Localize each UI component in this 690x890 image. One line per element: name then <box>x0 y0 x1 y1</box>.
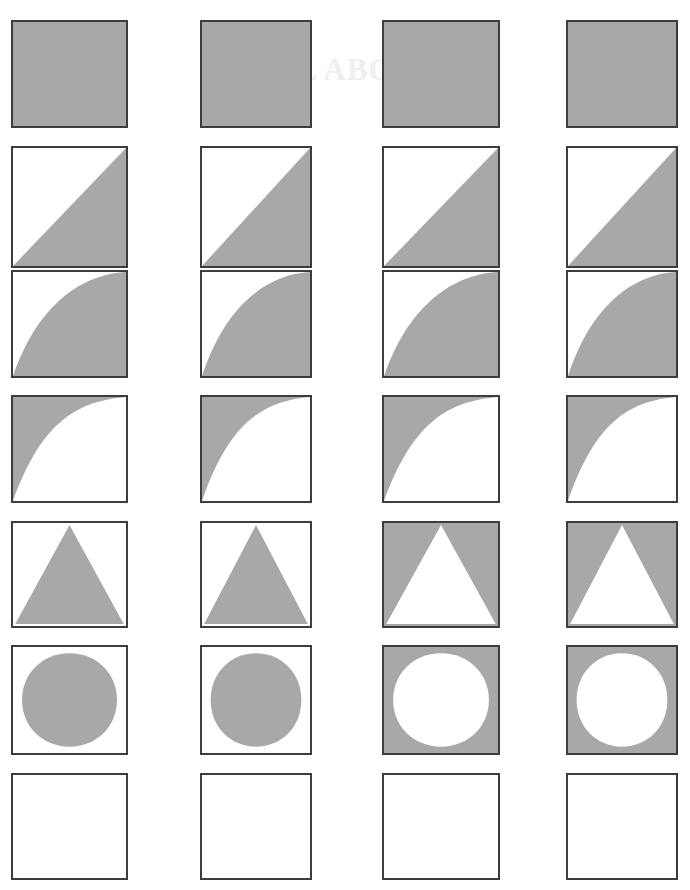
convex-curve-icon <box>568 272 676 376</box>
circle-path <box>577 653 668 746</box>
tile-inverted-triangle-r5c3 <box>382 521 500 628</box>
diagonal-half-path <box>568 148 676 266</box>
tile-concave-curve-filled-above-r4c2 <box>200 395 312 503</box>
tile-solid-filled-square-r1c2 <box>200 20 312 128</box>
pattern-sheet: ALL ABOUT <box>0 0 690 890</box>
tile-inverted-circle-r6c3 <box>382 645 500 755</box>
tile-filled-circle-r6c2 <box>200 645 312 755</box>
full-square-icon <box>384 22 498 126</box>
diagonal-half-icon <box>384 148 498 266</box>
tile-concave-curve-filled-above-r4c1 <box>11 395 128 503</box>
triangle-icon <box>13 523 126 626</box>
circle-icon <box>568 647 676 753</box>
circle-icon <box>202 647 310 753</box>
circle-icon <box>384 647 498 753</box>
tile-concave-curve-filled-above-r4c3 <box>382 395 500 503</box>
convex-curve-icon <box>202 272 310 376</box>
tile-inverted-circle-r6c4 <box>566 645 678 755</box>
triangle-icon <box>384 523 498 626</box>
full-square-path <box>568 22 676 126</box>
concave-curve-path <box>568 397 676 501</box>
convex-curve-path <box>13 272 126 376</box>
convex-curve-path <box>384 272 498 376</box>
triangle-path <box>15 525 123 624</box>
concave-curve-icon <box>384 397 498 501</box>
convex-curve-path <box>202 272 310 376</box>
circle-path <box>22 653 117 746</box>
concave-curve-icon <box>202 397 310 501</box>
concave-curve-path <box>202 397 310 501</box>
triangle-icon <box>202 523 310 626</box>
full-square-path <box>202 22 310 126</box>
tile-lower-right-diagonal-half-r2c4 <box>566 146 678 268</box>
full-square-path <box>13 22 126 126</box>
full-square-icon <box>13 22 126 126</box>
tile-lower-right-diagonal-half-r2c2 <box>200 146 312 268</box>
tile-lower-right-diagonal-half-r2c3 <box>382 146 500 268</box>
tile-convex-curve-filled-below-r3c2 <box>200 270 312 378</box>
full-square-path <box>384 22 498 126</box>
diagonal-half-icon <box>13 148 126 266</box>
tile-empty-square-r7c4 <box>566 773 678 880</box>
diagonal-half-path <box>384 148 498 266</box>
tile-solid-filled-square-r1c1 <box>11 20 128 128</box>
tile-convex-curve-filled-below-r3c3 <box>382 270 500 378</box>
full-square-icon <box>568 22 676 126</box>
full-square-icon <box>202 22 310 126</box>
triangle-path <box>204 525 308 624</box>
tile-solid-filled-square-r1c4 <box>566 20 678 128</box>
tile-convex-curve-filled-below-r3c4 <box>566 270 678 378</box>
tile-lower-right-diagonal-half-r2c1 <box>11 146 128 268</box>
diagonal-half-path <box>13 148 126 266</box>
tile-empty-square-r7c3 <box>382 773 500 880</box>
triangle-icon <box>568 523 676 626</box>
circle-path <box>393 653 489 746</box>
tile-solid-filled-square-r1c3 <box>382 20 500 128</box>
circle-icon <box>13 647 126 753</box>
tile-concave-curve-filled-above-r4c4 <box>566 395 678 503</box>
tile-filled-triangle-r5c1 <box>11 521 128 628</box>
tile-filled-triangle-r5c2 <box>200 521 312 628</box>
diagonal-half-icon <box>202 148 310 266</box>
triangle-path <box>386 525 495 624</box>
tile-convex-curve-filled-below-r3c1 <box>11 270 128 378</box>
convex-curve-path <box>568 272 676 376</box>
triangle-path <box>570 525 674 624</box>
concave-curve-icon <box>13 397 126 501</box>
concave-curve-path <box>384 397 498 501</box>
pattern-grid <box>0 0 690 890</box>
diagonal-half-path <box>202 148 310 266</box>
convex-curve-icon <box>13 272 126 376</box>
tile-filled-circle-r6c1 <box>11 645 128 755</box>
diagonal-half-icon <box>568 148 676 266</box>
convex-curve-icon <box>384 272 498 376</box>
tile-empty-square-r7c1 <box>11 773 128 880</box>
tile-inverted-triangle-r5c4 <box>566 521 678 628</box>
circle-path <box>211 653 302 746</box>
concave-curve-path <box>13 397 126 501</box>
tile-empty-square-r7c2 <box>200 773 312 880</box>
concave-curve-icon <box>568 397 676 501</box>
